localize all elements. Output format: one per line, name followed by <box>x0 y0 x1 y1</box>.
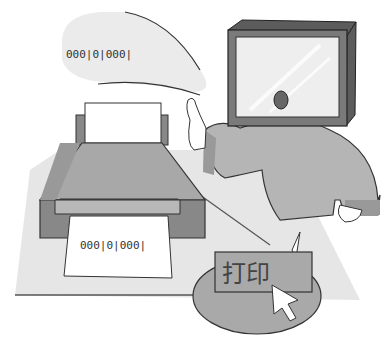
paper-binary-text: 000|0|000| <box>80 239 146 252</box>
monitor-head <box>228 20 356 126</box>
print-button-label: 打印 <box>222 260 270 288</box>
bubble-binary-text: 000|0|000| <box>66 48 132 61</box>
illustration-canvas: 000|0|000| 000|0|000| <box>0 0 390 347</box>
speech-bubble: 000|0|000| <box>62 12 207 95</box>
mouth <box>274 91 288 109</box>
